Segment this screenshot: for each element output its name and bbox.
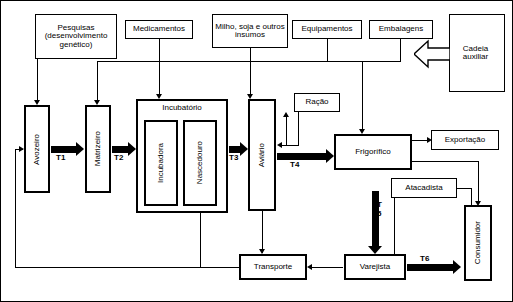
- node-racao-label: Ração: [305, 98, 328, 106]
- bus-top-horizontal: [97, 61, 362, 62]
- connector-bus-aviario-tip: [247, 94, 253, 99]
- flow-arrow-t4: [277, 149, 334, 163]
- node-incubadora-label: Incubadora: [157, 143, 165, 183]
- node-avozeiro: Avozeiro: [24, 105, 50, 193]
- node-equipamentos-label: Equipamentos: [301, 25, 352, 33]
- connector-bus-frigorifico: [362, 61, 363, 132]
- connector-transporte-feedback-v: [15, 149, 16, 267]
- transition-label-t6: T6: [420, 254, 429, 263]
- node-exportacao: Exportação: [431, 130, 499, 150]
- node-insumos: Milho, soja e outros insumos: [212, 14, 288, 48]
- connector-atacadista-down: [394, 198, 395, 256]
- connector-aviario-transporte-tip: [259, 249, 265, 254]
- node-consumidor-label: Consumidor: [474, 221, 482, 264]
- node-avozeiro-label: Avozeiro: [33, 134, 41, 165]
- node-insumos-label: Milho, soja e outros insumos: [214, 23, 286, 40]
- connector-varejista-transporte: [311, 267, 343, 268]
- connector-embalagens-down: [400, 39, 401, 61]
- node-atacadista-label: Atacadista: [405, 184, 442, 192]
- node-cadeia-auxiliar-label: Cadeia auxiliar: [451, 45, 500, 62]
- connector-frigorifico-exportacao-tip: [427, 137, 432, 143]
- connector-insumos-down: [250, 48, 251, 61]
- connector-transporte-feedback-h: [15, 267, 239, 268]
- node-pesquisas: Pesquisas (desenvolvimento genético): [35, 14, 117, 59]
- connector-atacadista-consumidor-v: [471, 188, 472, 206]
- transition-label-t4: T4: [290, 160, 299, 169]
- connector-aviario-racao-tip: [283, 112, 289, 117]
- connector-bus-frigorifico-tip: [359, 129, 365, 134]
- connector-racao-aviario: [281, 145, 299, 146]
- connector-bus-matrizeiro-tip: [94, 100, 100, 105]
- connector-aviario-transporte: [262, 211, 263, 253]
- transition-label-t3: T3: [229, 153, 238, 162]
- transition-label-t1: T1: [56, 153, 65, 162]
- node-exportacao-label: Exportação: [445, 136, 485, 144]
- node-medicamentos: Medicamentos: [125, 20, 193, 39]
- node-consumidor: Consumidor: [464, 205, 492, 281]
- connector-bus-aviario: [250, 61, 251, 97]
- node-matrizeiro-label: Matrizeiro: [94, 131, 102, 166]
- node-nascedouro-label: Nascedouro: [196, 141, 204, 184]
- connector-frigorifico-consumidor-v: [478, 161, 479, 204]
- node-transporte: Transporte: [239, 254, 307, 280]
- connector-frigorifico-consumidor-tip: [475, 201, 481, 206]
- node-aviario: Aviário: [248, 99, 276, 211]
- node-pesquisas-label: Pesquisas (desenvolvimento genético): [37, 24, 115, 49]
- connector-incubatorio-down: [200, 213, 201, 267]
- node-atacadista: Atacadista: [391, 178, 457, 198]
- node-medicamentos-label: Medicamentos: [133, 25, 185, 33]
- flow-arrow-t6: [407, 260, 461, 274]
- node-aviario-label: Aviário: [258, 143, 266, 167]
- node-equipamentos: Equipamentos: [292, 20, 362, 39]
- node-embalagens-label: Embalagens: [379, 25, 423, 33]
- transition-label-t2: T2: [114, 153, 123, 162]
- node-incubatorio-label: Incubatório: [162, 104, 202, 112]
- transition-label-t5: T 5: [377, 201, 387, 219]
- connector-aviario-racao-riser: [286, 116, 287, 146]
- node-incubadora: Incubadora: [144, 120, 178, 206]
- connector-feedback-avozeiro-tip: [19, 146, 24, 152]
- node-frigorifico-label: Frigorífico: [355, 148, 391, 156]
- connector-bus-matrizeiro: [97, 61, 98, 102]
- process-flow-diagram: Pesquisas (desenvolvimento genético) Med…: [0, 0, 513, 302]
- connector-bus-incubatorio-tip: [156, 94, 162, 99]
- node-frigorifico: Frigorífico: [334, 134, 412, 170]
- node-racao: Ração: [294, 93, 340, 112]
- connector-atacadista-consumidor: [457, 188, 471, 189]
- node-cadeia-auxiliar: Cadeia auxiliar: [449, 14, 505, 92]
- node-embalagens: Embalagens: [369, 20, 433, 39]
- connector-pesquisas-avozeiro: [37, 59, 38, 102]
- node-transporte-label: Transporte: [254, 263, 292, 271]
- connector-bus-incubatorio: [159, 61, 160, 97]
- connector-equipamentos-down: [327, 39, 328, 61]
- connector-medicamentos-down: [159, 39, 160, 61]
- connector-racao-down: [298, 112, 299, 146]
- connector-frigorifico-consumidor-h: [412, 161, 478, 162]
- node-varejista-label: Varejista: [360, 263, 391, 271]
- node-nascedouro: Nascedouro: [183, 120, 217, 206]
- connector-racao-aviario-tip: [277, 142, 282, 148]
- connector-pesquisas-avozeiro-tip: [34, 100, 40, 105]
- connector-embalagens-bus: [362, 61, 401, 62]
- node-varejista: Varejista: [344, 254, 406, 280]
- node-matrizeiro: Matrizeiro: [85, 105, 111, 193]
- cadeia-auxiliar-inflow-arrow: [414, 39, 450, 69]
- connector-varejista-transporte-tip: [307, 264, 312, 270]
